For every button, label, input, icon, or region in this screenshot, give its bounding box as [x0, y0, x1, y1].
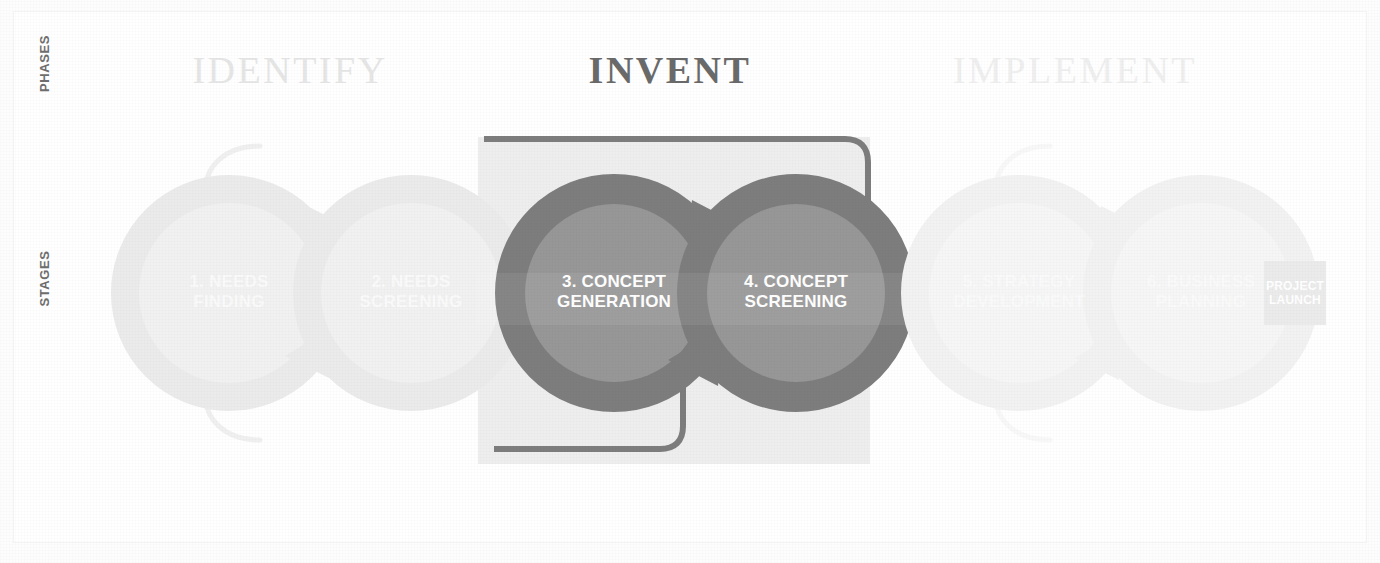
project-launch-line2: LAUNCH [1269, 293, 1321, 307]
stage-group-invent-graphics [490, 168, 920, 418]
phase-title-invent[interactable]: INVENT [500, 48, 840, 92]
axis-label-stages: STAGES [37, 229, 52, 329]
stage-group-implement-graphics [895, 168, 1325, 418]
project-launch-box[interactable]: PROJECT LAUNCH [1264, 261, 1326, 325]
phase-title-implement[interactable]: IMPLEMENT [890, 48, 1260, 92]
phase-title-identify[interactable]: IDENTIFY [120, 48, 460, 92]
stage-group-identify-graphics [105, 168, 535, 418]
stage-group-implement: 5. STRATEGY DEVELOPMENT 6. BUSINESS PLAN… [895, 168, 1325, 418]
axis-label-phases: PHASES [37, 14, 52, 114]
stage-group-invent: 3. CONCEPT GENERATION 4. CONCEPT SCREENI… [490, 168, 920, 418]
project-launch-line1: PROJECT [1266, 279, 1324, 293]
diagram-canvas: PHASES STAGES IDENTIFY INVENT IMPLEMENT [0, 0, 1380, 563]
stage-group-identify: 1. NEEDS FINDING 2. NEEDS SCREENING [105, 168, 535, 418]
